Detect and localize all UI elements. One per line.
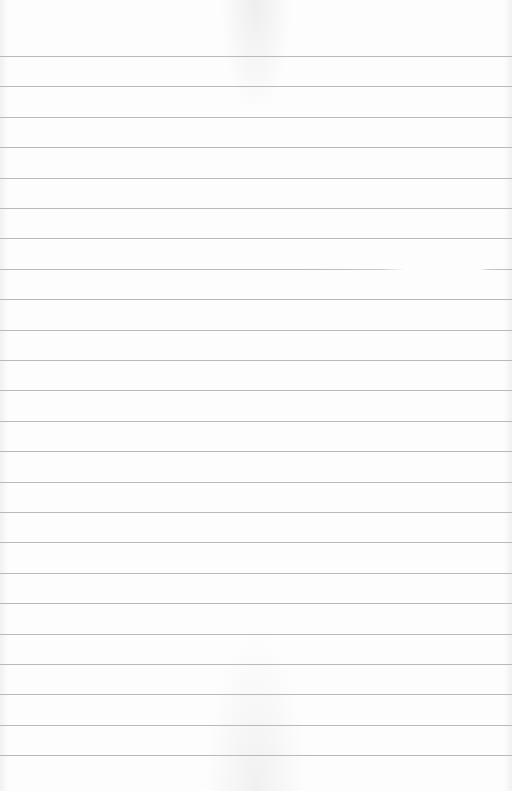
ruled-line [0,542,512,543]
ruled-line [0,755,512,756]
ruled-line [0,360,512,361]
ruled-line [0,238,512,239]
ruled-line [0,299,512,300]
ruled-line [0,694,512,695]
ruled-line [0,56,512,57]
ruled-line [0,451,512,452]
ruled-line [0,512,512,513]
ruled-line [0,573,512,574]
ruled-line [0,725,512,726]
ruled-line [0,178,512,179]
ruled-line [0,634,512,635]
ruled-line [0,664,512,665]
ruled-line [0,482,512,483]
ruled-line [0,390,512,391]
ruled-line [0,421,512,422]
ruled-line [0,208,512,209]
ruled-line [0,117,512,118]
ruled-line [0,330,512,331]
lined-paper [0,0,512,791]
ruled-line [0,603,512,604]
ruled-line [0,269,512,270]
ruled-line [0,86,512,87]
ruled-line [0,147,512,148]
